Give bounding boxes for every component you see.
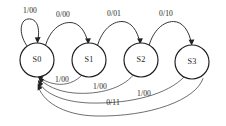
transition-s2-to-s3[interactable]: 0/10 xyxy=(149,9,194,46)
edge-label-s0-s1: 0/00 xyxy=(56,10,70,19)
edge-path-s0-self-loop xyxy=(21,19,38,47)
edge-path-s2-s0 xyxy=(40,76,134,94)
edge-path-s1-s2 xyxy=(98,22,140,46)
state-node-s0[interactable]: S0 xyxy=(20,43,54,77)
transition-s1-to-s2[interactable]: 0/01 xyxy=(98,9,143,46)
state-node-s3[interactable]: S3 xyxy=(175,45,209,79)
edge-label-s0-self-loop: 1/00 xyxy=(23,6,37,15)
transition-s2-to-s0[interactable]: 1/00 xyxy=(38,76,133,94)
state-diagram-canvas: 1/00 0/00 0/01 0/10 1/00 xyxy=(0,0,226,126)
edge-label-s1-s2: 0/01 xyxy=(107,9,121,18)
edge-label-s3-s0-secondary: 0/11 xyxy=(106,98,120,107)
state-label-s0: S0 xyxy=(32,55,41,64)
state-node-s1[interactable]: S1 xyxy=(72,43,106,77)
state-node-s2[interactable]: S2 xyxy=(124,43,158,77)
edge-path-s2-s3 xyxy=(149,22,191,46)
edge-path-s0-s1 xyxy=(46,23,88,46)
state-label-s2: S2 xyxy=(136,55,145,64)
transition-s0-to-s1[interactable]: 0/00 xyxy=(46,10,91,46)
edge-label-s2-s0: 1/00 xyxy=(93,82,107,91)
edge-label-s1-s0: 1/00 xyxy=(55,75,69,84)
edge-label-s3-s0-primary: 1/00 xyxy=(137,89,151,98)
fsm-diagram: 1/00 0/00 0/01 0/10 1/00 xyxy=(0,0,226,126)
transition-s0-to-s0[interactable]: 1/00 xyxy=(21,6,40,47)
state-label-s3: S3 xyxy=(187,57,196,66)
state-label-s1: S1 xyxy=(84,55,93,64)
edge-label-s2-s3: 0/10 xyxy=(159,9,173,18)
